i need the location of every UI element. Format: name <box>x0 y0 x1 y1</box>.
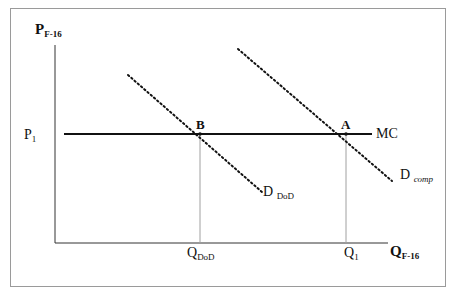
point-a-marker <box>344 132 348 136</box>
diagram-canvas <box>0 0 453 294</box>
d-comp-label: D comp <box>400 168 433 184</box>
y-axis-label: PF-16 <box>35 22 62 39</box>
q1-label: Q1 <box>344 246 359 262</box>
q-dod-label: QDoD <box>187 246 215 262</box>
mc-label: MC <box>376 127 398 141</box>
x-axis-label: QF-16 <box>390 244 419 261</box>
point-a-label: A <box>341 118 350 131</box>
point-b-label: B <box>196 118 205 131</box>
d-dod-label: D DoD <box>263 185 294 201</box>
point-b-marker <box>198 132 202 136</box>
price-p1-label: P1 <box>24 128 36 144</box>
d-comp-curve <box>238 49 392 181</box>
